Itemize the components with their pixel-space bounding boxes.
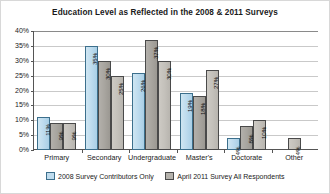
y-tick-label: 40% (0, 27, 29, 34)
bar-value-label: 27% (212, 77, 219, 89)
y-tick-label: 0% (0, 146, 29, 153)
education-level-bar-chart: Education Level as Reflected in the 2008… (0, 0, 330, 194)
bar-value-label: 30% (165, 68, 172, 80)
legend-label: April 2011 Survey All Respondents (177, 173, 284, 180)
y-tick-label: 35% (0, 42, 29, 49)
legend-item-2008[interactable]: 2008 Survey Contributors Only (46, 172, 154, 180)
bar-group: 35%30%25% (81, 31, 129, 150)
legend-swatch-icon (165, 172, 174, 180)
bar[interactable]: 9% (50, 123, 63, 150)
x-axis-label: Secondary (81, 153, 129, 162)
bar[interactable]: 35% (85, 46, 98, 150)
bar-value-label: 9% (70, 132, 77, 141)
bar-group: 26%37%30% (128, 31, 176, 150)
bar[interactable]: 4% (288, 138, 301, 150)
bar-value-label: 25% (117, 83, 124, 95)
legend-swatch-icon (46, 172, 55, 180)
y-tick-label: 15% (0, 101, 29, 108)
bar[interactable]: 18% (193, 96, 206, 150)
x-axis-label: Primary (33, 153, 81, 162)
x-axis-label: Master's (176, 153, 224, 162)
x-axis-label: Other (271, 153, 319, 162)
bar[interactable]: 25% (111, 76, 124, 150)
legend-item-2011[interactable]: April 2011 Survey All Respondents (165, 172, 285, 180)
legend-label: 2008 Survey Contributors Only (58, 173, 154, 180)
y-tick-label: 25% (0, 72, 29, 79)
bar[interactable]: 19% (180, 93, 193, 150)
bar-group: 19%18%27% (176, 31, 224, 150)
bar[interactable]: 9% (63, 123, 76, 150)
x-axis-label: Undergraduate (128, 153, 176, 162)
bar-value-label: 37% (152, 47, 159, 59)
y-tick-label: 10% (0, 116, 29, 123)
bar[interactable]: 11% (37, 117, 50, 150)
bar[interactable]: 30% (98, 61, 111, 150)
bar[interactable]: 8% (240, 126, 253, 150)
bar[interactable]: 4% (227, 138, 240, 150)
bar-group: 4% (271, 31, 319, 150)
bar-group: 4%8%10% (223, 31, 271, 150)
y-tick-label: 5% (0, 131, 29, 138)
bar[interactable]: 10% (253, 120, 266, 150)
y-tick-label: 30% (0, 57, 29, 64)
x-axis-label: Doctorate (223, 153, 271, 162)
chart-title: Education Level as Reflected in the 2008… (0, 8, 330, 17)
y-tick-label: 20% (0, 87, 29, 94)
bar[interactable]: 27% (206, 70, 219, 150)
bar[interactable]: 37% (145, 40, 158, 150)
bar[interactable]: 26% (132, 73, 145, 150)
bar[interactable]: 30% (158, 61, 171, 150)
chart-legend: 2008 Survey Contributors Only April 2011… (0, 172, 330, 180)
y-tick-mark (31, 150, 34, 151)
bar-value-label: 10% (260, 127, 267, 139)
bar-group: 11%9%9% (33, 31, 81, 150)
